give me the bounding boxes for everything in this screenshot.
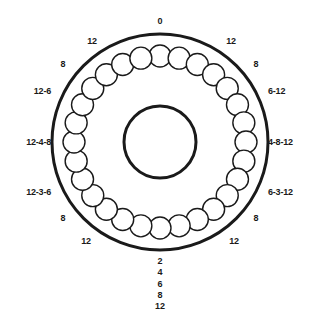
ring-label-mid-upper-right: 6-12 bbox=[268, 87, 285, 96]
ring-label-bottom-right: 12 bbox=[229, 237, 239, 246]
plate-shapes bbox=[52, 34, 268, 250]
seed-hole bbox=[130, 47, 152, 69]
bottom-stack-item: 12 bbox=[155, 301, 165, 311]
ring-label-upper-right: 8 bbox=[254, 60, 259, 69]
center-hub-circle bbox=[124, 106, 196, 178]
ring-label-lower-right: 8 bbox=[254, 214, 259, 223]
ring-label-lower-left: 8 bbox=[61, 214, 66, 223]
ring-label-top-center: 0 bbox=[158, 17, 163, 26]
ring-label-mid-lower-left: 12-3-6 bbox=[26, 188, 51, 197]
bottom-stack-item: 2 bbox=[157, 256, 162, 266]
bottom-stack-item: 4 bbox=[157, 267, 162, 277]
bottom-stack-item: 6 bbox=[157, 279, 162, 289]
ring-label-bottom-left: 12 bbox=[81, 237, 91, 246]
seed-plate-diagram: 012128812-66-1212-4-84-8-1212-3-66-3-128… bbox=[0, 0, 315, 319]
ring-label-mid-left: 12-4-8 bbox=[26, 138, 51, 147]
ring-label-top-right: 12 bbox=[226, 37, 236, 46]
bottom-number-stack: 246812 bbox=[155, 256, 165, 312]
ring-label-upper-left: 8 bbox=[61, 60, 66, 69]
bottom-stack-item: 8 bbox=[157, 290, 162, 300]
ring-label-mid-lower-right: 6-3-12 bbox=[268, 188, 293, 197]
ring-label-top-left: 12 bbox=[87, 37, 97, 46]
ring-label-mid-right: 4-8-12 bbox=[268, 138, 293, 147]
ring-label-mid-upper-left: 12-6 bbox=[34, 87, 51, 96]
